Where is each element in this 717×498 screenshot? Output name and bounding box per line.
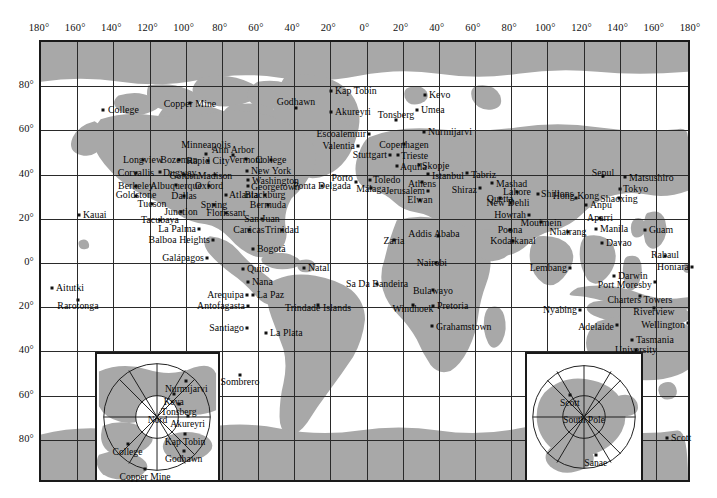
latitude-tick-label: 80° (4, 432, 34, 443)
station-marker[interactable] (601, 242, 604, 245)
station-label: Kap Tobin (335, 86, 377, 96)
station-marker[interactable] (247, 185, 250, 188)
station-marker[interactable] (619, 188, 622, 191)
station-label: Aparri (587, 213, 613, 223)
station-marker[interactable] (691, 266, 694, 269)
station-label: Scott (671, 433, 691, 443)
station-marker[interactable] (246, 327, 249, 330)
station-marker[interactable] (159, 171, 162, 174)
station-label: Sombrero (220, 377, 259, 387)
station-marker[interactable] (368, 133, 371, 136)
meridian-line (222, 42, 223, 480)
station-marker[interactable] (616, 324, 619, 327)
station-label: Málaga (356, 184, 386, 194)
station-marker[interactable] (613, 275, 616, 278)
longitude-tick-label: 60° (248, 22, 263, 33)
station-label: Shiraz (452, 185, 477, 195)
pole-center-label: South Pole (563, 414, 605, 425)
station-marker[interactable] (397, 154, 400, 157)
station-marker[interactable] (242, 268, 245, 271)
station-label: Grahamstown (436, 322, 492, 332)
station-marker[interactable] (432, 305, 435, 308)
station-label: Nyabing (543, 305, 577, 315)
station-marker[interactable] (427, 190, 430, 193)
station-marker[interactable] (416, 109, 419, 112)
station-marker[interactable] (330, 90, 333, 93)
station-label: Sanae (584, 457, 607, 468)
station-label: Santiago (209, 323, 244, 333)
station-marker[interactable] (537, 193, 540, 196)
station-marker[interactable] (424, 94, 427, 97)
station-label: Scott (560, 397, 580, 408)
station-marker[interactable] (579, 309, 582, 312)
station-label: La Paz (257, 290, 284, 300)
station-label: Manila (600, 224, 628, 234)
station-label: Elwan (407, 195, 432, 205)
station-label: Pretoria (437, 301, 468, 311)
station-marker[interactable] (246, 170, 249, 173)
station-marker[interactable] (666, 437, 669, 440)
station-label: Sepul (592, 168, 615, 178)
station-marker[interactable] (624, 176, 627, 179)
longitude-tick-label: 80° (502, 22, 517, 33)
station-marker[interactable] (252, 294, 255, 297)
station-marker[interactable] (247, 281, 250, 284)
station-marker[interactable] (265, 332, 268, 335)
station-marker[interactable] (206, 257, 209, 260)
longitude-tick-label: 160° (65, 22, 86, 33)
meridian-line (258, 42, 259, 480)
station-label: La Palma (158, 224, 196, 234)
parallel-line (41, 263, 688, 264)
station-marker[interactable] (303, 267, 306, 270)
station-label: Trindade Islands (285, 303, 351, 313)
station-marker[interactable] (466, 172, 469, 175)
station-marker[interactable] (252, 248, 255, 251)
station-label: Copper Mine (164, 99, 217, 109)
station-marker[interactable] (389, 154, 392, 157)
station-marker[interactable] (246, 294, 249, 297)
station-marker[interactable] (569, 267, 572, 270)
station-label: Florissant (206, 208, 245, 218)
station-marker[interactable] (396, 165, 399, 168)
longitude-tick-label: 180° (29, 22, 50, 33)
station-marker[interactable] (423, 131, 426, 134)
station-marker[interactable] (78, 214, 81, 217)
station-label: Kevo (429, 90, 450, 100)
station-marker[interactable] (585, 204, 588, 207)
station-label: College (256, 155, 287, 165)
station-marker[interactable] (198, 228, 201, 231)
station-marker[interactable] (687, 322, 690, 325)
longitude-tick-label: 120° (571, 22, 592, 33)
station-label: Wellington (641, 320, 685, 330)
longitude-tick-label: 120° (137, 22, 158, 33)
longitude-tick-label: 160° (643, 22, 664, 33)
station-marker[interactable] (418, 164, 421, 167)
station-label: Quito (247, 264, 270, 274)
station-marker[interactable] (357, 145, 360, 148)
station-label: Charters Towers (608, 295, 673, 305)
station-marker[interactable] (654, 281, 657, 284)
station-marker[interactable] (644, 229, 647, 232)
station-marker[interactable] (369, 179, 372, 182)
station-label: Matsushiro (629, 173, 674, 183)
longitude-tick-label: 140° (607, 22, 628, 33)
station-label: Riverview (633, 307, 674, 317)
station-label: Ponta Delgada (293, 181, 351, 191)
station-label: Sa Da Bandeira (346, 279, 408, 289)
station-marker[interactable] (51, 287, 54, 290)
station-marker[interactable] (491, 182, 494, 185)
station-marker[interactable] (427, 173, 430, 176)
station-marker[interactable] (595, 228, 598, 231)
station-marker[interactable] (431, 325, 434, 328)
station-marker[interactable] (225, 194, 228, 197)
latitude-tick-label: 20° (4, 300, 34, 311)
station-marker[interactable] (212, 239, 215, 242)
station-marker[interactable] (479, 187, 482, 190)
station-marker[interactable] (631, 339, 634, 342)
station-marker[interactable] (247, 179, 250, 182)
station-marker[interactable] (247, 305, 250, 308)
station-marker[interactable] (330, 111, 333, 114)
station-marker[interactable] (102, 109, 105, 112)
station-label: Bermuda (250, 200, 286, 210)
longitude-tick-label: 80° (212, 22, 227, 33)
